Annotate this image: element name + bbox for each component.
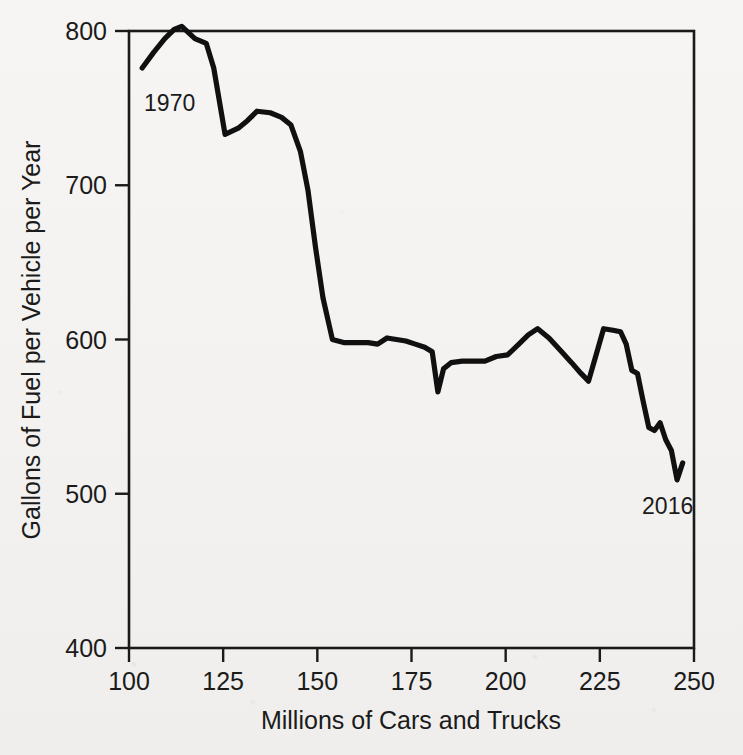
x-tick-label: 125 [202, 667, 244, 695]
x-tick-label: 150 [296, 667, 338, 695]
x-tick-label: 200 [485, 667, 527, 695]
y-tick-label: 700 [65, 171, 107, 199]
y-tick-label: 600 [65, 326, 107, 354]
chart-svg: 400500600700800 100125150175200225250 19… [0, 0, 743, 755]
y-axis-tick-labels: 400500600700800 [65, 17, 107, 662]
x-tick-label: 225 [579, 667, 621, 695]
data-series-line [142, 26, 683, 480]
annotation-2016: 2016 [642, 493, 693, 519]
annotation-1970: 1970 [144, 90, 195, 116]
x-tick-label: 100 [108, 667, 150, 695]
x-tick-label: 175 [391, 667, 433, 695]
x-axis-ticks [129, 648, 694, 662]
y-axis-ticks [115, 31, 129, 648]
plot-frame [129, 31, 694, 648]
y-tick-label: 800 [65, 17, 107, 45]
y-tick-label: 500 [65, 480, 107, 508]
x-tick-label: 250 [673, 667, 715, 695]
x-axis-tick-labels: 100125150175200225250 [108, 667, 715, 695]
y-axis-title: Gallons of Fuel per Vehicle per Year [17, 141, 45, 540]
y-tick-label: 400 [65, 634, 107, 662]
chart-annotations: 19702016 [144, 90, 693, 519]
x-axis-title: Millions of Cars and Trucks [261, 706, 561, 734]
chart-figure: 400500600700800 100125150175200225250 19… [0, 0, 743, 755]
